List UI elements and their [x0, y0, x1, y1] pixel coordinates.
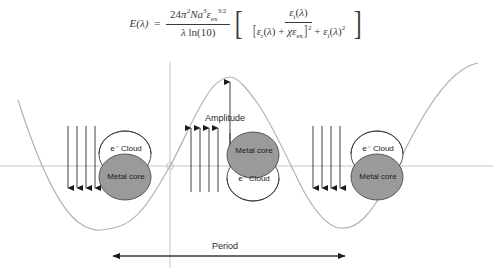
particle-middle [227, 132, 279, 201]
field-arrows-right [313, 126, 340, 188]
amplitude-label: Amplitude [205, 113, 245, 123]
particle-right [351, 131, 403, 200]
particle-middle-metal-core [227, 132, 279, 178]
wave-diagram [0, 0, 493, 270]
period-label: Period [212, 241, 238, 251]
field-arrows-left [68, 126, 95, 188]
figure-canvas: E(λ) = 24π2Na3εex3/2 λ ln(10) [ εi(λ) [ε… [0, 0, 493, 270]
particle-right-metal-core [351, 154, 403, 200]
particle-left [99, 131, 151, 200]
field-arrows-middle [191, 128, 218, 192]
particle-left-metal-core [99, 154, 151, 200]
